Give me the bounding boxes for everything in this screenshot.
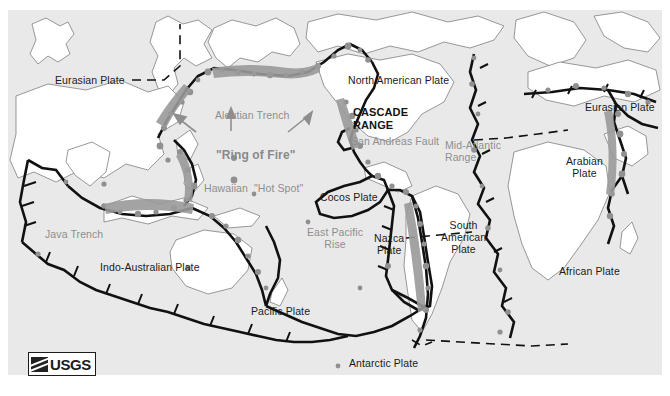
plate-label-african: African Plate <box>559 265 620 277</box>
plate-label-antarctic: Antarctic Plate <box>349 357 418 369</box>
feature-label-cascade-range: CASCADE RANGE <box>353 106 408 133</box>
map-canvas: Eurasian Plate North American Plate Eura… <box>8 10 662 375</box>
feature-label-san-andreas-fault: San Andreas Fault <box>351 135 439 147</box>
plate-label-eurasian-east: Eurasian Plate <box>585 101 655 113</box>
arrow-ring-right <box>288 112 312 132</box>
plate-label-cocos: Cocos Plate <box>320 191 378 203</box>
arrow-ring-left <box>174 114 196 132</box>
boundary-mid-atlantic <box>470 54 514 338</box>
plate-label-pacific: Pacific Plate <box>251 305 310 317</box>
plate-label-nazca: Nazca Plate <box>374 232 404 256</box>
land-canada <box>306 12 504 54</box>
usgs-logo-text: USGS <box>50 357 91 372</box>
feature-label-mid-atlantic-range: Mid-Atlantic Range <box>445 139 501 163</box>
feature-label-ring-of-fire: "Ring of Fire" <box>216 149 295 163</box>
land-scandinavia <box>594 12 660 52</box>
feature-label-aleutian-trench: Aleutian Trench <box>215 109 289 121</box>
land-madagascar <box>620 222 638 254</box>
usgs-wave-mark-icon <box>31 357 48 372</box>
land-kamchatka <box>150 16 212 96</box>
land-greenland <box>514 12 586 66</box>
land-siberia-east <box>30 18 74 64</box>
landmasses-layer <box>10 12 660 332</box>
feature-label-hawaiian-hot-spot: Hawaiian "Hot Spot" <box>204 182 303 194</box>
usgs-logo: USGS <box>28 352 96 376</box>
feature-label-java-trench: Java Trench <box>45 228 103 240</box>
land-europe <box>528 60 660 106</box>
feature-label-east-pacific-rise: East Pacific Rise <box>307 226 363 250</box>
plate-label-eurasian-west: Eurasian Plate <box>55 74 125 86</box>
land-india <box>66 142 110 186</box>
plate-label-north-american: North American Plate <box>348 74 449 86</box>
plate-label-indo-australian: Indo-Australian Plate <box>100 261 200 273</box>
plate-label-arabian: Arabian Plate <box>566 155 603 179</box>
land-alaska <box>208 18 300 68</box>
land-new-zealand <box>270 278 288 306</box>
tectonic-plates-map-figure: Eurasian Plate North American Plate Eura… <box>0 0 670 396</box>
plate-label-south-american: South American Plate <box>441 219 486 255</box>
boundary-dashed-antarctic-south <box>426 340 568 346</box>
